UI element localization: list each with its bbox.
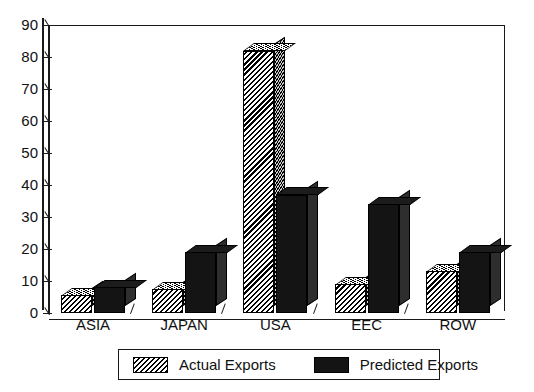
bar-front-face [368,204,399,313]
bar-row-actual-exports [426,271,457,313]
bar-group-eec [335,25,399,313]
bar-side-face [307,180,318,306]
legend-swatch-solid-icon [314,357,349,373]
bar-usa-predicted-exports [276,195,307,313]
bar-front-face [185,252,216,313]
x-axis-label-japan: JAPAN [134,316,234,334]
y-tick-label: 70 [21,79,38,98]
bar-side-face [399,190,410,306]
y-tick-label: 20 [21,239,38,258]
bar-front-face [459,252,490,313]
bar-group-japan [152,25,216,313]
y-tick-label: 30 [21,207,38,226]
x-axis-label-row: ROW [408,316,508,334]
bar-front-face [152,289,183,313]
bars-layer [49,25,505,313]
bar-asia-actual-exports [61,295,92,313]
legend-item-actual-exports: Actual Exports [133,350,276,379]
legend-swatch-hatch-icon [133,357,168,373]
y-tick-label: 90 [21,15,38,34]
bar-eec-actual-exports [335,284,366,313]
bar-group-row [426,25,490,313]
y-tick-label: 40 [21,175,38,194]
bar-group-usa [243,25,307,313]
bar-group-asia [61,25,125,313]
bar-usa-actual-exports [243,51,274,313]
bar-asia-predicted-exports [94,287,125,313]
bar-eec-predicted-exports [368,204,399,313]
x-axis-label-eec: EEC [317,316,417,334]
bar-row-predicted-exports [459,252,490,313]
bar-front-face [426,271,457,313]
bar-front-face [61,295,92,313]
bar-front-face [335,284,366,313]
y-tick-label: 60 [21,111,38,130]
y-axis-line-back [42,18,44,310]
x-axis-label-usa: USA [225,316,325,334]
bar-side-face [125,273,136,306]
y-tick-label: 80 [21,47,38,66]
legend-label-predicted-exports: Predicted Exports [360,356,478,374]
bar-chart: 9080706050403020100 ASIAJAPANUSAEECROW A… [0,0,534,392]
bar-japan-predicted-exports [185,252,216,313]
bar-front-face [276,195,307,313]
legend-label-actual-exports: Actual Exports [179,356,276,374]
y-tick-label: 0 [30,303,38,322]
bar-front-face [94,287,125,313]
legend-item-predicted-exports: Predicted Exports [314,350,478,379]
chart-legend: Actual Exports Predicted Exports [118,349,440,380]
y-tick-label: 50 [21,143,38,162]
bar-front-face [243,51,274,313]
bar-japan-actual-exports [152,289,183,313]
x-axis-label-asia: ASIA [43,316,143,334]
y-tick-label: 10 [21,271,38,290]
